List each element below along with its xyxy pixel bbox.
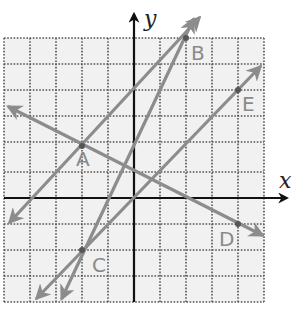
label-C: C xyxy=(92,253,106,277)
point-C xyxy=(79,247,85,253)
point-B xyxy=(183,35,189,41)
x-axis-label: x xyxy=(279,168,292,193)
coordinate-plane: x y A B C D E xyxy=(0,0,305,317)
point-E xyxy=(235,87,241,93)
label-D: D xyxy=(219,227,234,251)
y-axis-label: y xyxy=(143,6,157,31)
label-E: E xyxy=(242,92,255,116)
point-D xyxy=(235,221,241,227)
label-A: A xyxy=(76,147,90,171)
label-B: B xyxy=(191,41,205,65)
